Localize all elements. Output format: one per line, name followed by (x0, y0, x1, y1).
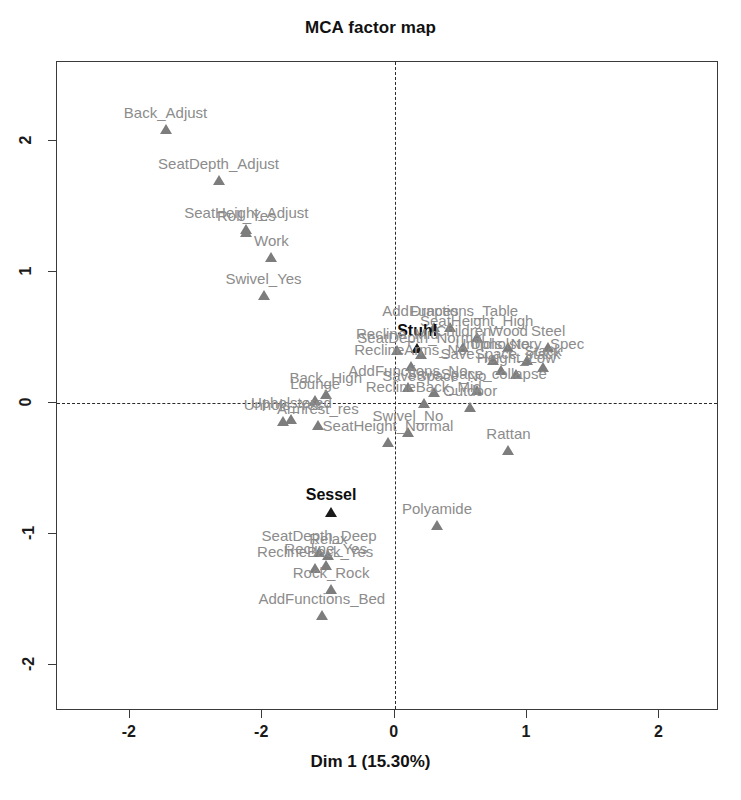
x-tick-label: 1 (522, 723, 531, 741)
data-point (325, 507, 337, 517)
data-point (258, 290, 270, 300)
data-point (502, 445, 514, 455)
point-label: Height_Low (477, 350, 556, 365)
y-tick (48, 140, 56, 141)
point-label: Armrest_res (277, 401, 359, 416)
y-tick-label: 2 (17, 135, 35, 144)
chart-title: MCA factor map (0, 18, 741, 38)
point-label: Sessel (306, 487, 357, 503)
data-point (431, 520, 443, 530)
point-label: AddFunctions_Bed (258, 591, 385, 606)
data-point (464, 402, 476, 412)
point-label: Roll_Yes (217, 208, 276, 223)
y-tick-label: 0 (17, 397, 35, 406)
data-point (240, 227, 252, 237)
x-axis-label: Dim 1 (15.30%) (0, 752, 741, 772)
y-tick (48, 533, 56, 534)
point-label: Work (254, 233, 289, 248)
y-tick-label: -2 (20, 657, 38, 671)
point-label: Lounge (290, 376, 340, 391)
x-tick (261, 710, 262, 718)
x-tick-label: 0 (389, 723, 398, 741)
y-tick (48, 271, 56, 272)
x-tick-label: 2 (654, 723, 663, 741)
point-label: SeatHeight_Normal (323, 418, 454, 433)
x-tick-label: -2 (122, 723, 136, 741)
x-tick (394, 710, 395, 718)
x-tick (658, 710, 659, 718)
point-label: Rattan (486, 426, 530, 441)
point-label: Recline_Yes (284, 541, 367, 556)
data-point (277, 416, 289, 426)
x-tick (129, 710, 130, 718)
horizontal-zero-line (57, 403, 717, 404)
data-point (316, 610, 328, 620)
y-tick-label: -1 (20, 526, 38, 540)
point-label: Swivel_Yes (225, 271, 301, 286)
y-tick-label: 1 (17, 266, 35, 275)
x-tick (526, 710, 527, 718)
point-label: SeatDepth_Adjust (158, 156, 279, 171)
point-label: Rock_Rock (293, 565, 370, 580)
data-point (160, 124, 172, 134)
data-point (382, 437, 394, 447)
point-label: Polyamide (402, 501, 472, 516)
x-tick-label: -2 (254, 723, 268, 741)
point-label: Outdoor (443, 383, 497, 398)
data-point (265, 252, 277, 262)
y-tick (48, 664, 56, 665)
mca-factor-map-figure: MCA factor map Back_AdjustSeatDepth_Adju… (0, 0, 741, 800)
y-tick (48, 402, 56, 403)
data-point (213, 175, 225, 185)
plot-area: Back_AdjustSeatDepth_AdjustSeatHeight_Ad… (56, 61, 718, 710)
point-label: Back_Adjust (124, 105, 207, 120)
